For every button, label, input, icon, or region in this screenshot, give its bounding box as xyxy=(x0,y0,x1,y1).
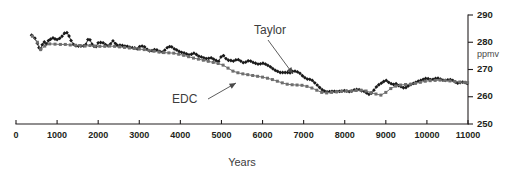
x-tick-label: 6000 xyxy=(253,130,273,140)
data-point xyxy=(466,81,469,84)
data-point xyxy=(138,48,141,51)
data-point xyxy=(54,43,57,46)
data-point xyxy=(148,49,151,52)
data-point xyxy=(231,70,234,73)
data-point xyxy=(360,89,363,92)
data-point xyxy=(256,75,259,78)
data-point xyxy=(207,60,210,63)
x-tick-label: 8000 xyxy=(335,130,355,140)
data-point xyxy=(266,77,269,80)
data-point xyxy=(177,53,180,56)
x-tick-label: 11000 xyxy=(456,130,481,140)
data-point xyxy=(236,71,239,74)
taylor-label: Taylor xyxy=(254,23,286,37)
data-point xyxy=(370,91,373,94)
data-point xyxy=(286,83,289,86)
data-point xyxy=(374,93,377,96)
data-point xyxy=(128,46,131,49)
x-axis-title: Years xyxy=(228,156,256,168)
y-tick-label: 290 xyxy=(477,9,493,20)
data-point xyxy=(222,64,225,67)
data-point xyxy=(291,83,294,86)
data-point xyxy=(31,35,34,38)
data-point xyxy=(325,91,328,94)
data-point xyxy=(74,44,77,47)
data-point xyxy=(143,48,146,51)
data-point xyxy=(192,57,195,60)
data-point xyxy=(88,44,91,47)
data-point xyxy=(187,55,190,58)
data-point xyxy=(261,76,264,79)
data-point xyxy=(113,45,116,48)
data-point xyxy=(251,74,254,77)
data-point xyxy=(93,45,96,48)
x-tick-label: 0 xyxy=(13,130,18,140)
data-point xyxy=(241,72,244,75)
data-point xyxy=(305,85,308,88)
data-point xyxy=(281,81,284,84)
data-point xyxy=(453,80,456,83)
data-point xyxy=(59,43,62,46)
data-point xyxy=(443,79,446,82)
series-markers-taylor xyxy=(30,31,469,96)
data-point xyxy=(414,82,417,85)
x-tick-label: 5000 xyxy=(211,130,231,140)
series-annotations: TaylorEDC xyxy=(172,23,293,106)
data-series xyxy=(30,31,469,97)
co2-chart-figure: 0100020003000400050006000700080009000100… xyxy=(0,0,524,177)
data-point xyxy=(182,54,185,57)
data-point xyxy=(36,41,39,44)
data-point xyxy=(463,81,466,84)
data-point xyxy=(389,87,392,90)
data-point xyxy=(384,91,387,94)
y-unit-label: ppmv xyxy=(477,49,500,59)
data-point xyxy=(202,59,205,62)
data-point xyxy=(379,94,382,97)
x-tick-label: 7000 xyxy=(294,130,314,140)
data-point xyxy=(320,91,323,94)
data-point xyxy=(434,79,437,82)
data-point xyxy=(153,50,156,53)
data-point xyxy=(424,80,427,83)
data-point xyxy=(172,52,175,55)
edc-leader xyxy=(208,83,236,99)
data-point xyxy=(335,90,338,93)
data-point xyxy=(355,89,358,92)
data-point xyxy=(197,58,200,61)
data-point xyxy=(271,78,274,81)
data-point xyxy=(212,61,215,64)
x-tick-label: 4000 xyxy=(170,130,190,140)
x-tick-label: 1000 xyxy=(47,130,67,140)
data-point xyxy=(69,43,72,46)
data-point xyxy=(48,42,51,45)
data-point xyxy=(157,51,160,54)
data-point xyxy=(98,45,101,48)
data-point xyxy=(315,89,318,92)
data-point xyxy=(394,85,397,88)
data-point xyxy=(399,84,402,87)
y-tick-label: 280 xyxy=(477,36,493,47)
data-point xyxy=(162,51,165,54)
data-point xyxy=(118,45,121,48)
data-point xyxy=(167,51,170,54)
data-point xyxy=(300,84,303,87)
data-point xyxy=(108,45,111,48)
data-point xyxy=(296,84,299,87)
data-point xyxy=(43,45,46,48)
data-point xyxy=(419,81,422,84)
x-tick-label: 2000 xyxy=(88,130,108,140)
data-point xyxy=(276,80,279,83)
x-tick-label: 9000 xyxy=(376,130,396,140)
data-point xyxy=(310,87,313,90)
y-tick-label: 250 xyxy=(477,118,493,129)
data-point xyxy=(365,90,368,93)
data-point xyxy=(330,91,333,94)
data-point xyxy=(39,48,42,51)
data-point xyxy=(133,47,136,50)
data-point xyxy=(103,45,106,48)
data-point xyxy=(409,83,412,86)
data-point xyxy=(340,90,343,93)
y-tick-label: 270 xyxy=(477,63,493,74)
data-point xyxy=(439,79,442,82)
data-point xyxy=(84,45,87,48)
